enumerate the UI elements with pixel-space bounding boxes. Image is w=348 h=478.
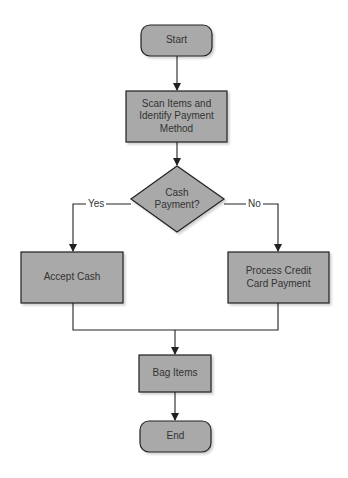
flowchart-canvas [0, 0, 348, 478]
end-label: End [140, 421, 211, 452]
scan-label: Scan Items and Identify Payment Method [130, 91, 223, 142]
bag-label: Bag Items [139, 355, 211, 392]
decision-label: Cash Payment? [146, 180, 208, 218]
edge-decision-process-credit [224, 204, 278, 251]
edge-decision-accept-cash [73, 204, 131, 251]
accept-cash-label: Accept Cash [21, 252, 123, 303]
edge-label-no: No [246, 198, 263, 210]
edge-accept-cash-bag [73, 303, 278, 330]
edge-label-yes: Yes [86, 198, 106, 210]
start-label: Start [141, 25, 212, 56]
process-credit-label: Process Credit Card Payment [234, 252, 323, 303]
